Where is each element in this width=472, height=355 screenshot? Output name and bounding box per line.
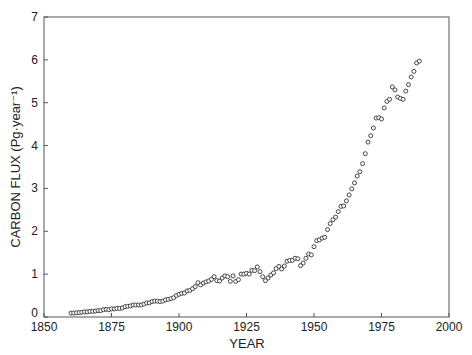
x-tick-label: 1975 (368, 320, 395, 334)
y-axis-title: CARBON FLUX (Pg·year⁻¹) (8, 86, 23, 247)
data-point (409, 75, 413, 79)
data-point (388, 97, 392, 101)
data-point (361, 162, 365, 166)
data-point (342, 204, 346, 208)
y-tick-label: 0 (31, 306, 38, 320)
data-point (412, 69, 416, 73)
data-point (253, 269, 257, 273)
x-tick-label: 1950 (301, 320, 328, 334)
y-tick-label: 7 (31, 10, 38, 24)
data-point (344, 199, 348, 203)
y-tick-label: 6 (31, 53, 38, 67)
data-point (417, 59, 421, 63)
plot-axes: 185018751900192519501975200001234567 (31, 10, 463, 334)
x-tick-label: 1900 (166, 320, 193, 334)
y-tick-label: 4 (31, 139, 38, 153)
data-point (366, 140, 370, 144)
data-point (393, 88, 397, 92)
data-point (309, 253, 313, 257)
data-point (336, 210, 340, 214)
data-point (382, 106, 386, 110)
data-point (328, 222, 332, 226)
data-point (212, 275, 216, 279)
data-point (334, 215, 338, 219)
data-point (193, 285, 197, 289)
data-point (236, 278, 240, 282)
data-point (226, 275, 230, 279)
x-tick-label: 1925 (233, 320, 260, 334)
data-point (247, 272, 251, 276)
data-point (231, 274, 235, 278)
y-tick-label: 2 (31, 224, 38, 238)
data-point (296, 257, 300, 261)
data-point (380, 117, 384, 121)
x-tick-label: 2000 (436, 320, 463, 334)
data-point (350, 187, 354, 191)
data-point (326, 228, 330, 232)
data-point (282, 264, 286, 268)
data-point (301, 261, 305, 265)
data-point (363, 152, 367, 156)
x-axis-title: YEAR (229, 336, 264, 351)
data-point (228, 279, 232, 283)
data-point (401, 97, 405, 101)
data-point (347, 193, 351, 197)
data-point (312, 245, 316, 249)
x-tick-label: 1875 (98, 320, 125, 334)
data-point (371, 126, 375, 130)
data-points (69, 59, 421, 315)
data-point (353, 181, 357, 185)
data-point (369, 134, 373, 138)
data-point (304, 256, 308, 260)
data-point (272, 271, 276, 275)
carbon-flux-chart: 185018751900192519501975200001234567 YEA… (0, 0, 472, 355)
y-tick-label: 5 (31, 96, 38, 110)
y-tick-label: 1 (31, 267, 38, 281)
data-point (404, 89, 408, 93)
data-point (358, 170, 362, 174)
data-point (255, 265, 259, 269)
data-point (323, 235, 327, 239)
y-tick-label: 3 (31, 181, 38, 195)
x-tick-label: 1850 (31, 320, 58, 334)
data-point (258, 270, 262, 274)
data-point (355, 174, 359, 178)
data-point (407, 83, 411, 87)
data-point (261, 275, 265, 279)
